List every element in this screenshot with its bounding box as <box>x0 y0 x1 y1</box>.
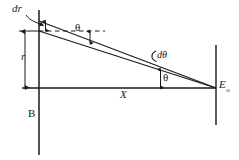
label-theta-upper: θ <box>75 22 80 33</box>
d-theta-arc-bracket <box>152 51 157 62</box>
label-B: B <box>28 108 35 119</box>
label-E-source-subscript: o <box>226 86 230 94</box>
label-E-source-base: E <box>219 78 226 90</box>
optical-geometry-diagram: dr r B X θ dθ θ Eo <box>0 0 239 160</box>
lower-ray-line <box>39 31 216 88</box>
label-d-theta: dθ <box>157 50 167 60</box>
label-r: r <box>21 51 25 62</box>
label-dr: dr <box>12 3 22 14</box>
dr-leader-line <box>26 15 44 26</box>
label-E-source: Eo <box>219 79 229 93</box>
diagram-canvas <box>0 0 239 160</box>
label-X: X <box>120 89 127 100</box>
label-theta-lower: θ <box>163 72 168 83</box>
